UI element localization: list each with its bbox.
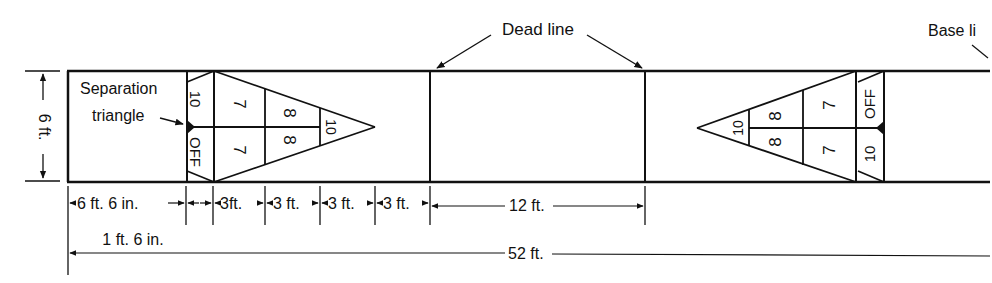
- dim-3ft-4: 3 ft.: [383, 195, 410, 212]
- dim-12ft: 12 ft.: [509, 197, 545, 214]
- right-strip-bottom-label: 10: [861, 146, 878, 163]
- base-line-arrow-icon: [972, 45, 988, 58]
- right-row2-top-label: 8: [766, 111, 785, 120]
- right-tip-label: 10: [730, 120, 746, 136]
- right-row1-bottom-label: 7: [820, 145, 839, 154]
- dim-52ft: 52 ft.: [508, 245, 544, 262]
- separation-triangle-label-line1: Separation: [80, 80, 157, 97]
- court-width-label: 6 ft.: [36, 114, 53, 141]
- base-line-label: Base li: [928, 22, 976, 39]
- separation-arrow-icon: [160, 118, 183, 124]
- left-row2-top-label: 8: [280, 108, 299, 117]
- left-strip-bottom-label: OFF: [187, 137, 204, 167]
- right-scoring-area: OFF 10 7 7 8 8 10: [697, 71, 884, 182]
- shuffleboard-court-diagram: 10 OFF 7 7 8 8 10 OFF 10 7 7 8 8 10 Sepa…: [0, 0, 992, 283]
- left-scoring-area: 10 OFF 7 7 8 8 10: [187, 71, 375, 182]
- dim-6ft6in: 6 ft. 6 in.: [77, 195, 138, 212]
- dead-lines: [430, 71, 645, 182]
- separation-triangle-icon: [187, 120, 195, 134]
- left-tip-label: 10: [323, 119, 339, 135]
- left-row1-top-label: 7: [230, 99, 249, 108]
- right-row2-bottom-label: 8: [766, 137, 785, 146]
- left-strip-top-label: 10: [187, 91, 204, 108]
- right-strip-top-label: OFF: [861, 89, 878, 119]
- width-dimension: 6 ft.: [25, 71, 60, 181]
- left-row1-bottom-label: 7: [230, 145, 249, 154]
- dead-line-arrow-left-icon: [437, 35, 491, 68]
- length-dimensions: 6 ft. 6 in. 1 ft. 6 in. 3ft. 3 ft. 3 ft.…: [68, 186, 990, 275]
- dead-line-arrow-right-icon: [587, 35, 642, 68]
- dim-3ft-2: 3 ft.: [273, 195, 300, 212]
- separation-triangle-icon-right: [876, 121, 884, 135]
- separation-triangle-label-line2: triangle: [92, 107, 145, 124]
- dim-3ft-3: 3 ft.: [328, 195, 355, 212]
- dead-line-label: Dead line: [502, 20, 574, 39]
- dim-3ft-1: 3ft.: [220, 195, 242, 212]
- dim-1ft6in: 1 ft. 6 in.: [102, 231, 163, 248]
- left-row2-bottom-label: 8: [280, 135, 299, 144]
- right-row1-top-label: 7: [820, 100, 839, 109]
